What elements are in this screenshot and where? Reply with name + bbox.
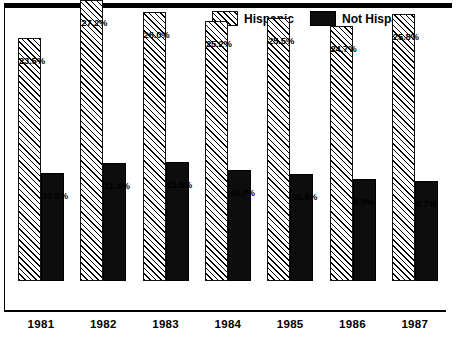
x-axis-label-1987: 1987 (382, 318, 448, 330)
x-axis-label-1981: 1981 (8, 318, 74, 330)
x-axis-line (4, 310, 446, 312)
plot-area: 23.5%10.5%27.2%11.4%26.0%11.5%25.2%10.7%… (0, 0, 456, 311)
bar-hispanic-1987 (392, 14, 415, 281)
bar-value-label-not-hispanic-1987: 9.7% (416, 198, 437, 209)
bar-value-label-not-hispanic-1984: 10.7% (229, 187, 255, 198)
bar-hispanic-1981 (18, 38, 41, 281)
bar-value-label-not-hispanic-1981: 10.5% (42, 190, 68, 201)
bar-not-hispanic-1987 (415, 181, 438, 281)
bar-value-label-not-hispanic-1982: 11.4% (104, 180, 129, 191)
bar-value-label-not-hispanic-1986: 9.9% (354, 196, 375, 207)
bar-hispanic-1984 (205, 21, 228, 281)
bar-hispanic-1986 (330, 26, 353, 281)
x-axis-label-1983: 1983 (133, 318, 199, 330)
bar-value-label-hispanic-1984: 25.2% (206, 38, 232, 49)
bar-value-label-not-hispanic-1983: 11.5% (167, 179, 192, 190)
bar-chart: Hispanic Not Hispanic 23.5%10.5%27.2%11.… (0, 0, 456, 341)
bar-value-label-not-hispanic-1985: 10.4% (291, 191, 317, 202)
bar-value-label-hispanic-1986: 24.7% (331, 43, 357, 54)
x-axis-label-1986: 1986 (320, 318, 386, 330)
bar-hispanic-1985 (267, 18, 290, 281)
bar-not-hispanic-1986 (353, 179, 376, 281)
x-axis-label-1985: 1985 (257, 318, 323, 330)
bar-value-label-hispanic-1981: 23.5% (19, 55, 45, 66)
bar-value-label-hispanic-1983: 26.0% (144, 29, 170, 40)
x-axis-label-1982: 1982 (70, 318, 136, 330)
bar-value-label-hispanic-1987: 25.8% (393, 31, 419, 42)
bar-value-label-hispanic-1985: 25.5% (268, 35, 294, 46)
x-axis-label-1984: 1984 (195, 318, 261, 330)
bar-value-label-hispanic-1982: 27.2% (81, 17, 107, 28)
bar-hispanic-1982 (80, 0, 103, 281)
bar-hispanic-1983 (143, 12, 166, 281)
